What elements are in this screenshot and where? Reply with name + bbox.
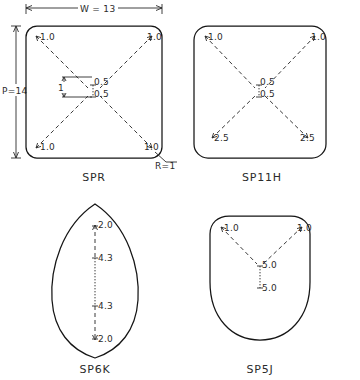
spr-radius-callout: R=1 [155, 152, 177, 171]
dimension-drawing-svg: W = 13 P=14 [0, 0, 360, 380]
figure-root: W = 13 P=14 [0, 0, 360, 380]
spr-width-dimension: W = 13 [26, 2, 162, 14]
sp11h-diagonals [205, 36, 315, 138]
spr-panel-label: SPR [82, 171, 106, 184]
sp11h-value-top-right: 1.0 [311, 32, 326, 42]
sp6k-value-upper-mid: 4.3 [98, 253, 113, 263]
sp6k-panel-label: SP6K [79, 363, 110, 376]
sp11h-value-center-lower: 0.5 [260, 89, 275, 99]
width-dimension-label: W = 13 [80, 4, 115, 14]
sp11h-value-bottom-right: 2.5 [300, 133, 315, 143]
height-dimension-label: P=14 [2, 86, 28, 96]
center-gap-label: 1 [58, 83, 64, 93]
sp11h-value-bottom-left: 2.5 [214, 133, 229, 143]
sp6k-value-lower-mid: 4.3 [98, 301, 113, 311]
spr-value-bottom-right: 1.0 [144, 142, 159, 152]
sp5j-value-top-left: 1.0 [224, 223, 239, 233]
spr-value-bottom-left: 1.0 [40, 142, 55, 152]
spr-value-center-lower: 0.5 [94, 89, 109, 99]
spr-value-center-upper: 0.5 [94, 77, 109, 87]
spr-value-top-left: 1.0 [40, 32, 55, 42]
sp11h-value-center-upper: 0.5 [260, 77, 275, 87]
spr-value-top-right: 1.0 [147, 32, 162, 42]
sp11h-value-top-left: 1.0 [208, 32, 223, 42]
sp5j-value-center-upper: 5.0 [262, 260, 277, 270]
panel-sp11h: 1.0 1.0 2.5 2.5 0.5 0.5 SP11H [194, 26, 326, 184]
radius-label: R=1 [155, 161, 175, 171]
panel-sp5j: 1.0 1.0 5.0 5.0 SP5J [210, 216, 312, 376]
sp5j-value-center-lower: 5.0 [262, 283, 277, 293]
panel-spr: W = 13 P=14 [2, 2, 177, 184]
sp11h-corner-arrows [205, 36, 315, 138]
sp5j-value-top-right: 1.0 [297, 223, 312, 233]
sp11h-panel-label: SP11H [242, 171, 282, 184]
sp6k-value-top: 2.0 [98, 220, 113, 230]
sp5j-panel-label: SP5J [246, 363, 273, 376]
sp6k-value-bottom: 2.0 [98, 334, 113, 344]
panel-sp6k: 2.0 4.3 4.3 2.0 SP6K [52, 204, 138, 376]
